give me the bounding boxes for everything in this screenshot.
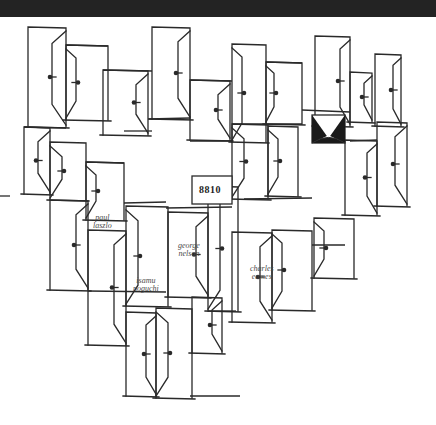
- door: [311, 218, 357, 279]
- last-name: nelson: [178, 250, 200, 258]
- door: [187, 80, 233, 141]
- last-name: eames: [250, 273, 274, 281]
- door: [265, 126, 301, 197]
- connector-line: [103, 70, 152, 71]
- connector-line: [124, 202, 166, 203]
- connector-line: [244, 198, 312, 199]
- connector-line: [148, 118, 190, 119]
- door: [374, 122, 410, 207]
- designer-name-paul-laszlo: paul laszlo: [93, 214, 112, 230]
- connector-line: [166, 207, 232, 208]
- designer-name-george-nelson: george nelson: [178, 242, 200, 258]
- door: [205, 186, 241, 312]
- door: [263, 62, 305, 125]
- connector-line: [190, 80, 232, 81]
- door: [229, 44, 269, 143]
- designer-name-isamu-noguchi: isamu noguchi: [133, 277, 159, 293]
- connector-lines: [0, 45, 377, 396]
- door: [25, 27, 69, 128]
- last-name: noguchi: [133, 285, 159, 293]
- door: [47, 200, 91, 291]
- door: [269, 230, 315, 311]
- door: [189, 297, 225, 354]
- door: [85, 230, 129, 346]
- door: [372, 54, 404, 127]
- door: [63, 45, 111, 121]
- door: [347, 72, 375, 123]
- door: [21, 127, 53, 195]
- connector-line: [86, 162, 124, 163]
- bow-tie-ornament: [312, 115, 345, 143]
- last-name: laszlo: [93, 222, 112, 230]
- door-illustration: [0, 0, 436, 425]
- door: [312, 36, 353, 127]
- designer-name-charles-eames: charles eames: [250, 265, 274, 281]
- door: [149, 27, 193, 120]
- code-label: 8810: [199, 184, 221, 195]
- door: [342, 140, 380, 216]
- doors-layer: [21, 27, 410, 399]
- connector-line: [66, 45, 108, 46]
- door: [123, 312, 159, 397]
- door: [47, 142, 89, 201]
- connector-line: [266, 62, 302, 63]
